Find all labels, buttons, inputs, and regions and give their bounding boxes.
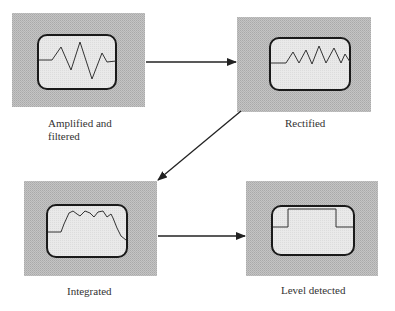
- stage-integrated-panel: [24, 181, 157, 276]
- label-rectified: Rectified: [285, 117, 325, 130]
- stage-rectified-panel: [237, 17, 371, 112]
- arrow-rectified-to-integrated: [158, 111, 241, 180]
- oscilloscope-screen-rectified: [270, 38, 350, 90]
- oscilloscope-screen-level: [272, 206, 354, 255]
- label-integrated: Integrated: [67, 285, 112, 298]
- label-amplified-line2: filtered: [48, 130, 112, 143]
- stage-amplified-panel: [12, 13, 145, 107]
- oscilloscope-screen-integrated: [47, 205, 127, 257]
- signal-processing-diagram: [0, 0, 395, 311]
- label-level-detected: Level detected: [281, 284, 345, 297]
- label-amplified: Amplified and filtered: [48, 117, 112, 143]
- label-amplified-line1: Amplified and: [48, 117, 112, 130]
- stage-level-panel: [246, 181, 378, 276]
- oscilloscope-screen-amplified: [38, 35, 116, 89]
